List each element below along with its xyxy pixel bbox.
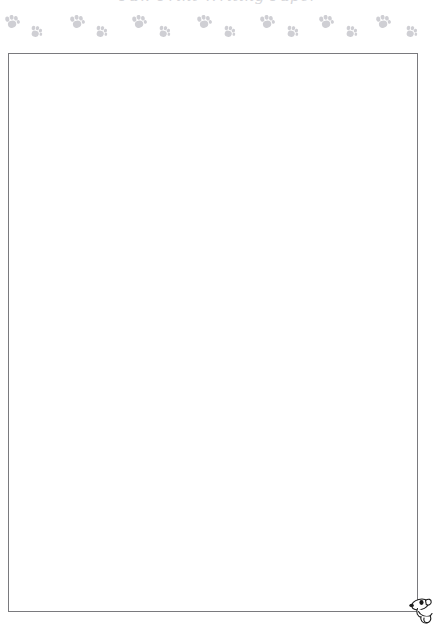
cartoon-dog-icon (405, 594, 437, 628)
paw-print-icon (156, 24, 172, 39)
paw-print-icon (284, 24, 300, 39)
paw-print-icon (130, 13, 149, 30)
page-title-strip: Paw Print Writing Paper (0, 0, 437, 9)
paw-print-icon (317, 13, 336, 30)
paw-print-icon (195, 13, 214, 30)
writing-box[interactable] (8, 53, 418, 612)
paw-print-icon (343, 24, 359, 39)
paw-print-icon (3, 13, 22, 30)
paw-print-icon (93, 24, 109, 39)
paw-print-icon (221, 24, 237, 39)
paw-print-icon (68, 13, 87, 30)
writing-area[interactable] (9, 54, 417, 611)
paw-print-icon (28, 24, 44, 39)
paw-print-icon (374, 13, 393, 30)
page-title: Paw Print Writing Paper (0, 0, 437, 5)
paw-print-icon (258, 13, 277, 30)
paw-print-border (0, 12, 437, 44)
paw-print-icon (403, 24, 419, 39)
